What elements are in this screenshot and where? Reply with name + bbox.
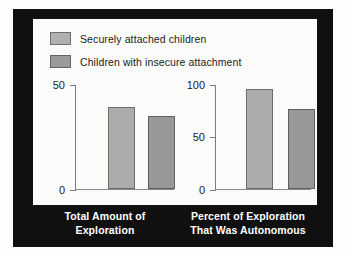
- chart-total-amount-of-exploration: 50 0: [41, 81, 176, 205]
- x-axis-right: [215, 189, 311, 190]
- bar-right-insecure: [288, 109, 315, 189]
- category-captions: Total Amount of Exploration Percent of E…: [33, 209, 317, 243]
- bar-right-secure: [246, 89, 273, 189]
- category-label-left-line2: Exploration: [35, 223, 175, 237]
- y-tick-label-left-0: 0: [59, 184, 65, 196]
- y-tick-label-right-100: 100: [187, 79, 205, 91]
- y-tick-label-right-50: 50: [193, 131, 205, 143]
- legend: Securely attached children Children with…: [50, 28, 305, 74]
- legend-label-insecure: Children with insecure attachment: [80, 56, 241, 68]
- category-label-total-amount: Total Amount of Exploration: [35, 209, 175, 237]
- legend-label-secure: Securely attached children: [80, 33, 206, 45]
- category-label-left-line1: Total Amount of: [35, 209, 175, 223]
- category-label-right-line2: That Was Autonomous: [179, 223, 317, 237]
- charts-container: 50 0: [33, 81, 317, 205]
- figure-frame: Securely attached children Children with…: [13, 9, 333, 247]
- y-tick-label-left-50: 50: [53, 79, 65, 91]
- y-tick-label-right-0: 0: [199, 184, 205, 196]
- y-tick-left-0: 0: [70, 190, 76, 191]
- category-label-percent-autonomous: Percent of Exploration That Was Autonomo…: [179, 209, 317, 237]
- plot-area-left: 50 0: [75, 85, 174, 190]
- x-axis-left: [75, 189, 174, 190]
- bars-left: [76, 84, 174, 189]
- bar-left-insecure: [148, 116, 175, 190]
- plot-area-right: 100 50 0: [215, 85, 311, 190]
- bar-left-secure: [108, 107, 135, 189]
- legend-swatch-icon-secure: [50, 32, 71, 45]
- y-tick-right-0: 0: [210, 190, 216, 191]
- legend-item-secure: Securely attached children: [50, 28, 305, 49]
- legend-swatch-icon-insecure: [50, 55, 71, 68]
- figure-root: Securely attached children Children with…: [0, 0, 346, 255]
- chart-percent-of-exploration-autonomous: 100 50 0: [181, 81, 313, 205]
- bars-right: [216, 84, 311, 189]
- legend-item-insecure: Children with insecure attachment: [50, 51, 305, 72]
- chart-panel: Securely attached children Children with…: [33, 19, 317, 205]
- category-label-right-line1: Percent of Exploration: [179, 209, 317, 223]
